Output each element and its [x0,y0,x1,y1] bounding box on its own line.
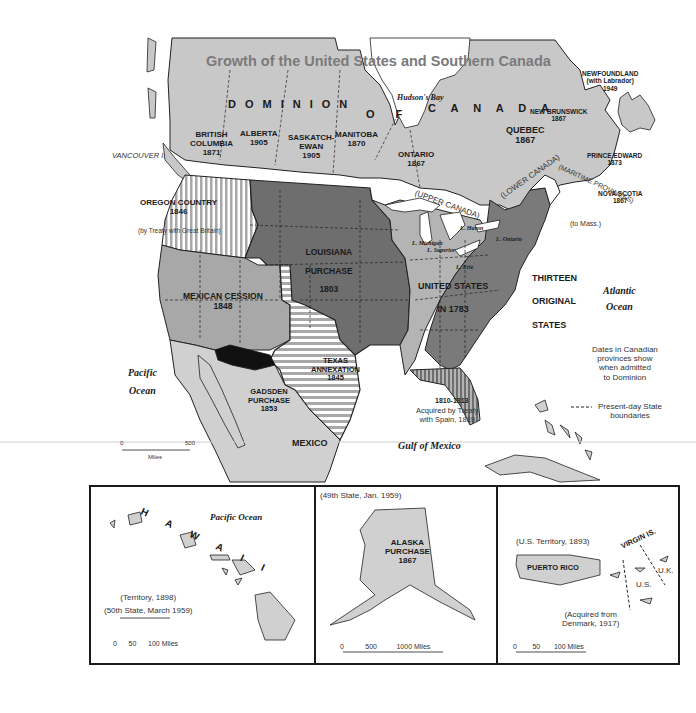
hawaii-status: (Territory, 1898) (50th State, March 195… [104,592,193,618]
to-mass-label: (to Mass.) [570,220,601,228]
territory-us-1783: UNITED STATES IN 1783 [418,275,488,322]
puerto-rico-label: PUERTO RICO [527,564,579,573]
newfoundland-island [618,92,655,132]
lake-michigan-label: L. Michigan [412,240,443,247]
pacific-ocean-label: Pacific Ocean [128,364,157,400]
atlantic-ocean-label: Atlantic Ocean [603,283,636,315]
territory-louisiana-purchase: LOUISIANA PURCHASE1803 [305,243,353,299]
lake-superior-label: L. Superior [427,247,455,254]
canadian-dates-note: Dates in Canadian provinces show when ad… [592,345,658,382]
main-scale-500: 500 [185,440,195,447]
gulf-of-mexico-label: Gulf of Mexico [398,440,461,452]
alaska-status: (49th State, Jan. 1959) [320,491,401,500]
oregon-treaty-note: (by Treaty with Great Britain) [138,227,221,234]
lake-huron-label: L. Huron [460,225,483,232]
province-new-brunswick: NEW BRUNSWICK1867 [530,108,587,123]
territory-thirteen-original-states: THIRTEEN ORIGINAL STATES [532,267,577,337]
of-label: O F [366,108,411,121]
bc-islands [147,38,156,118]
acquired-denmark-label: (Acquired from Denmark, 1917) [562,610,619,628]
puerto-rico-status: (U.S. Territory, 1893) [516,537,590,546]
province-newfoundland: NEWFOUNDLAND (with Labrador)1949 [582,70,638,92]
lake-erie-label: L. Erie [456,264,473,271]
hudson-bay-label: Hudson's Bay [397,93,443,102]
main-scale-0: 0 [120,440,123,447]
territory-texas-annexation: TEXAS ANNEXATION1845 [311,357,360,383]
us-label: U.S. [636,580,652,589]
alaska-scale: 0 500 1000 Miles [340,643,430,651]
cuba-island [485,455,600,482]
dominion-label: DOMINION [228,98,356,111]
territory-spain-treaty-1819: Acquired by Treaty with Spain, 1819 [416,407,479,424]
province-british-columbia: BRITISH COLUMBIA1871 [190,130,233,158]
map-title: Growth of the United States and Southern… [206,53,551,69]
lake-ontario-label: L. Ontario [496,236,522,243]
territory-mexican-cession: MEXICAN CESSION1848 [183,292,263,312]
hawaii-scale: 0 50 100 Miles [113,640,178,648]
province-ontario: ONTARIO1867 [398,150,434,168]
legend-state-boundaries: Present-day State boundaries [598,402,662,420]
province-saskatchewan: SASKATCH- EWAN1905 [288,133,335,161]
territory-oregon-country: OREGON COUNTRY1846 [140,198,217,216]
main-scale-unit: Miles [148,454,162,461]
uk-label: U.K. [658,566,674,575]
province-alberta: ALBERTA1905 [240,129,278,147]
puerto-rico-scale: 0 50 100 Miles [513,643,584,651]
territory-1810-1813: 1810-1813 [435,397,468,405]
mexico-label: MEXICO [292,438,328,448]
bahamas-islands [535,400,592,460]
alaska-purchase-label: ALASKA PURCHASE 1867 [385,538,430,566]
province-manitoba: MANITOBA1870 [335,130,378,148]
province-prince-edward: PRINCE EDWARD1873 [587,152,642,167]
vancouver-island-label: VANCOUVER I. [112,152,165,161]
hawaii-pacific-ocean-label: Pacific Ocean [210,512,262,522]
territory-gadsden-purchase: GADSDEN PURCHASE1853 [248,388,290,414]
oregon-country [162,175,258,258]
province-quebec: QUEBEC1867 [506,125,545,146]
